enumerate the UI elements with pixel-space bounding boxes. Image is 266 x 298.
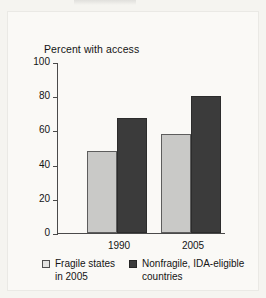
bar-group-1990: 1990 [87, 62, 151, 233]
y-tick-label: 40 [39, 159, 50, 170]
cropped-caption-sliver [74, 0, 136, 5]
y-tick-label: 0 [44, 227, 50, 238]
y-tick-20: 20 [57, 200, 58, 201]
bar-2005-nonfragile-ida[interactable] [191, 96, 221, 233]
x-axis-line [57, 233, 225, 234]
y-tick-mark [53, 166, 58, 167]
legend: Fragile states in 2005 Nonfragile, IDA-e… [42, 258, 258, 283]
y-tick-label: 60 [39, 124, 50, 135]
bar-1990-nonfragile-ida[interactable] [117, 118, 147, 233]
legend-entry-fragile-states[interactable]: Fragile states in 2005 [42, 258, 115, 283]
legend-swatch-icon-fragile-states [42, 260, 50, 268]
figure: Percent with access 100 80 60 40 [0, 0, 266, 298]
y-tick-mark [53, 97, 58, 98]
y-axis-title: Percent with access [44, 43, 139, 55]
legend-label-nonfragile-ida: Nonfragile, IDA-eligible countries [142, 258, 244, 283]
y-tick-mark [53, 63, 58, 64]
legend-label-line2: in 2005 [55, 271, 115, 284]
x-tick-label-1990: 1990 [87, 240, 151, 251]
y-tick-60: 60 [57, 131, 58, 132]
y-tick-0: 0 [57, 234, 58, 235]
y-axis-line [57, 63, 58, 234]
chart-plate: Percent with access 100 80 60 40 [8, 12, 258, 290]
y-tick-mark [53, 200, 58, 201]
y-tick-label: 80 [39, 90, 50, 101]
bar-2005-fragile-states[interactable] [161, 134, 191, 233]
y-tick-label: 20 [39, 193, 50, 204]
y-tick-100: 100 [57, 63, 58, 64]
legend-label-line2: countries [142, 271, 244, 284]
y-tick-80: 80 [57, 97, 58, 98]
legend-entry-nonfragile-ida[interactable]: Nonfragile, IDA-eligible countries [129, 258, 244, 283]
legend-label-line1: Nonfragile, IDA-eligible [142, 258, 244, 269]
legend-swatch-icon-nonfragile-ida [129, 260, 137, 268]
bar-1990-fragile-states[interactable] [87, 151, 117, 233]
legend-label-fragile-states: Fragile states in 2005 [55, 258, 115, 283]
y-tick-mark [53, 234, 58, 235]
bar-group-2005: 2005 [161, 62, 225, 233]
plot-area: 100 80 60 40 20 0 [57, 63, 225, 234]
legend-label-line1: Fragile states [55, 258, 115, 269]
x-tick-label-2005: 2005 [161, 240, 225, 251]
y-tick-mark [53, 131, 58, 132]
y-tick-40: 40 [57, 166, 58, 167]
y-tick-label: 100 [33, 56, 50, 67]
